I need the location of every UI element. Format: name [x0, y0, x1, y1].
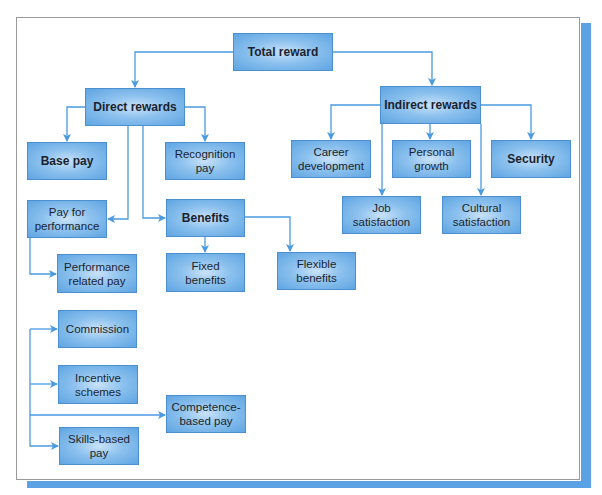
node-label: Total reward: [248, 45, 318, 59]
node-job-satisfaction: Job satisfaction: [342, 196, 421, 234]
node-label: Competence-based pay: [170, 400, 242, 428]
node-cultural-satisfaction: Cultural satisfaction: [442, 196, 521, 234]
node-label: Recognition pay: [169, 147, 241, 175]
frame-shadow-bottom: [27, 481, 591, 488]
node-label: Incentive schemes: [68, 371, 128, 399]
diagram-frame: [16, 17, 580, 480]
node-label: Personal growth: [402, 145, 462, 173]
node-pay-for-performance: Pay for performance: [27, 200, 107, 238]
node-incentive-schemes: Incentive schemes: [58, 365, 138, 404]
node-direct-rewards: Direct rewards: [85, 88, 185, 126]
node-indirect-rewards: Indirect rewards: [380, 86, 481, 124]
node-label: Performance related pay: [61, 260, 133, 288]
node-label: Direct rewards: [93, 100, 176, 114]
node-label: Benefits: [182, 211, 229, 225]
node-benefits: Benefits: [166, 199, 245, 237]
node-total-reward: Total reward: [233, 33, 333, 71]
frame-shadow-right: [581, 23, 591, 488]
node-label: Base pay: [41, 154, 94, 168]
node-label: Indirect rewards: [384, 98, 477, 112]
node-label: Career development: [295, 145, 367, 173]
node-label: Skills-based pay: [63, 432, 135, 460]
node-label: Pay for performance: [31, 205, 103, 233]
node-career-development: Career development: [291, 140, 371, 178]
node-label: Commission: [66, 322, 129, 336]
node-base-pay: Base pay: [27, 142, 107, 180]
node-recognition-pay: Recognition pay: [165, 142, 245, 180]
node-competence-based-pay: Competence-based pay: [166, 395, 246, 433]
node-personal-growth: Personal growth: [392, 140, 471, 178]
node-security: Security: [491, 140, 571, 178]
node-label: Security: [507, 152, 554, 166]
node-flexible-benefits: Flexible benefits: [277, 252, 356, 290]
node-fixed-benefits: Fixed benefits: [166, 253, 245, 292]
node-commission: Commission: [58, 310, 137, 348]
node-label: Cultural satisfaction: [447, 201, 517, 229]
node-label: Fixed benefits: [176, 259, 236, 287]
node-label: Flexible benefits: [287, 257, 347, 285]
node-performance-related-pay: Performance related pay: [57, 254, 137, 293]
node-label: Job satisfaction: [352, 201, 412, 229]
node-skills-based-pay: Skills-based pay: [59, 427, 139, 465]
